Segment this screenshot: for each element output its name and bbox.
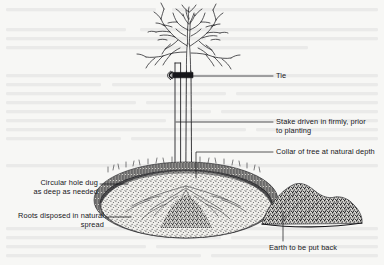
label-stake: Stake driven in firmly, prior to plantin… xyxy=(276,117,366,135)
planting-hole xyxy=(94,157,278,240)
figure-page: Tie Stake driven in firmly, prior to pla… xyxy=(0,0,384,265)
label-collar: Collar of tree at natural depth xyxy=(276,147,375,156)
label-circular-hole: Circular hole dug as deep as needed xyxy=(12,178,98,196)
earth-pile xyxy=(262,183,362,226)
label-roots: Roots disposed in natural spread xyxy=(2,211,104,229)
label-earth: Earth to be put back xyxy=(269,243,337,252)
label-tie: Tie xyxy=(276,71,286,80)
tree-canopy xyxy=(137,3,240,72)
